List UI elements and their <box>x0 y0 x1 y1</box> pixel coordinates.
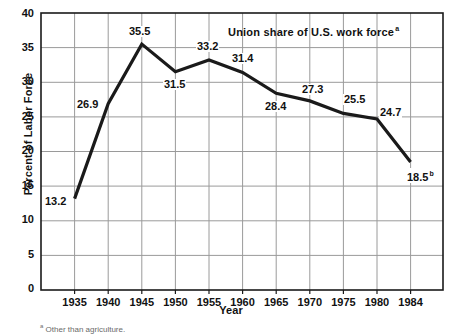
data-label-1955: 33.2 <box>196 41 219 52</box>
footnote: a Other than agriculture. <box>40 322 125 334</box>
data-label-1960: 31.4 <box>231 53 254 64</box>
data-label-1984-value: 18.5 <box>407 171 428 183</box>
x-axis-title: Year <box>0 304 462 316</box>
footnote-marker: a <box>40 323 43 329</box>
data-label-1970: 27.3 <box>301 84 324 95</box>
data-label-1965: 28.4 <box>264 101 287 112</box>
data-label-1980: 24.7 <box>379 107 402 118</box>
data-label-1984-footnote-marker: b <box>429 170 433 177</box>
data-label-1945: 35.5 <box>128 26 151 37</box>
chart-title-footnote-marker: a <box>395 25 399 32</box>
data-label-1950: 31.5 <box>163 79 186 90</box>
data-label-1935: 13.2 <box>44 196 67 207</box>
footnote-text: Other than agriculture. <box>46 325 126 334</box>
chart-title: Union share of U.S. work forcea <box>228 25 399 38</box>
data-label-1984: 18.5b <box>406 168 435 183</box>
data-label-1975: 25.5 <box>343 94 366 105</box>
data-label-1940: 26.9 <box>76 99 99 110</box>
chart-title-text: Union share of U.S. work force <box>228 26 394 38</box>
